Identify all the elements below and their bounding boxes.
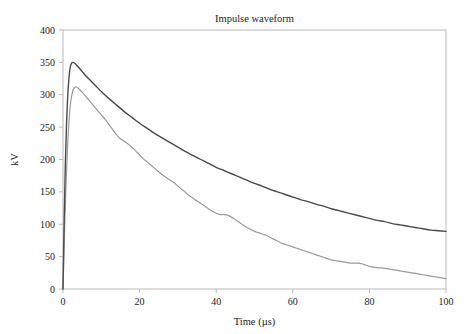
y-tick-label: 100 bbox=[40, 219, 55, 230]
y-tick-label: 200 bbox=[40, 154, 55, 165]
x-tick-label: 0 bbox=[61, 296, 66, 307]
plot-frame bbox=[63, 30, 446, 289]
y-axis-label: kV bbox=[9, 153, 20, 166]
x-tick-label: 40 bbox=[211, 296, 221, 307]
x-tick-label: 60 bbox=[288, 296, 298, 307]
x-axis-label: Time (µs) bbox=[234, 316, 276, 328]
y-tick-label: 0 bbox=[50, 284, 55, 295]
y-tick-label: 250 bbox=[40, 122, 55, 133]
y-tick-label: 350 bbox=[40, 57, 55, 68]
x-tick-label: 20 bbox=[135, 296, 145, 307]
x-tick-label: 100 bbox=[439, 296, 454, 307]
y-tick-label: 50 bbox=[45, 251, 55, 262]
y-tick-label: 400 bbox=[40, 25, 55, 36]
x-tick-label: 80 bbox=[364, 296, 374, 307]
chart-title: Impulse waveform bbox=[215, 13, 294, 24]
y-tick-label: 300 bbox=[40, 89, 55, 100]
chart-figure: Impulse waveform kV Time (µs) 0501001502… bbox=[0, 0, 474, 334]
y-tick-label: 150 bbox=[40, 186, 55, 197]
impulse-waveform-chart: Impulse waveform kV Time (µs) 0501001502… bbox=[0, 0, 474, 334]
